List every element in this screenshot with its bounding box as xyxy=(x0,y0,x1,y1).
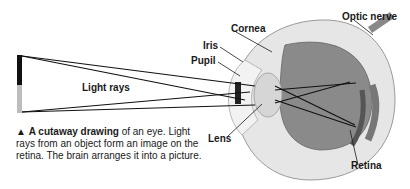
label-retina: Retina xyxy=(351,160,382,171)
label-lens: Lens xyxy=(208,133,231,144)
label-light-rays: Light rays xyxy=(82,82,130,93)
label-pupil: Pupil xyxy=(191,55,215,66)
caption-bold: A cutaway drawing xyxy=(29,126,119,137)
label-iris: Iris xyxy=(203,40,218,51)
eye-diagram: Cornea Iris Pupil Light rays Lens Optic … xyxy=(0,0,410,189)
label-optic-nerve: Optic nerve xyxy=(342,11,397,22)
lens-shape xyxy=(254,73,282,117)
figure-caption: ▲ A cutaway drawing of an eye. Light ray… xyxy=(16,126,206,162)
label-cornea: Cornea xyxy=(231,23,265,34)
object-dark-segment xyxy=(17,55,22,85)
object-light-segment xyxy=(17,85,22,113)
caption-marker: ▲ xyxy=(16,126,26,137)
